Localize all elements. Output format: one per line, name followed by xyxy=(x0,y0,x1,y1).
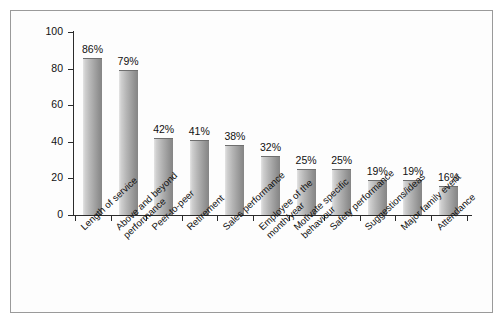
y-axis-tick-label: 20 xyxy=(11,171,63,183)
x-axis-tick xyxy=(431,215,432,221)
x-axis-tick xyxy=(217,215,218,221)
y-axis-tick-label: 100 xyxy=(11,25,63,37)
x-axis-tick xyxy=(360,215,361,221)
bar-value-label: 86% xyxy=(76,43,110,55)
bar-value-label: 41% xyxy=(182,125,216,137)
y-axis-tick xyxy=(68,215,73,216)
x-axis-tick xyxy=(395,215,396,221)
bar-value-label: 25% xyxy=(289,154,323,166)
y-axis-tick-label: 0 xyxy=(11,208,63,220)
bar-value-label: 42% xyxy=(147,123,181,135)
bar-value-label: 79% xyxy=(111,55,145,67)
bar-value-label: 19% xyxy=(396,165,430,177)
y-axis-tick-label: 80 xyxy=(11,62,63,74)
chart-figure: 020406080100 Length of serviceAbove and … xyxy=(10,10,493,313)
x-axis-tick xyxy=(253,215,254,221)
x-axis-tick xyxy=(75,215,76,221)
bar xyxy=(83,58,102,215)
y-axis-tick-label: 60 xyxy=(11,98,63,110)
bar-value-label: 38% xyxy=(218,130,252,142)
bar-value-label: 16% xyxy=(432,171,466,183)
x-axis-tick xyxy=(467,215,468,221)
y-axis-tick-label: 40 xyxy=(11,135,63,147)
bar-value-label: 19% xyxy=(360,165,394,177)
x-axis-tick xyxy=(182,215,183,221)
x-axis-tick xyxy=(111,215,112,221)
bar-value-label: 25% xyxy=(325,154,359,166)
bar-value-label: 32% xyxy=(254,141,288,153)
